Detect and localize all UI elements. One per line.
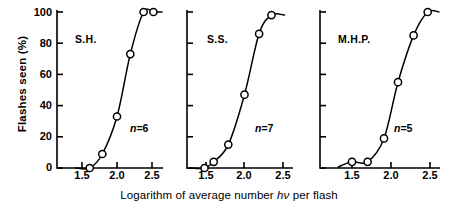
panel-mhp: M.H.P. n=5 1.5 2.0 2.5 <box>318 0 442 185</box>
y-tick-60: 60 <box>26 69 52 80</box>
y-tick-100: 100 <box>26 7 52 18</box>
n-label-mhp: n=5 <box>394 122 412 134</box>
x-tick-mhp-3: 2.5 <box>422 170 437 181</box>
plot-area-sh <box>55 0 165 185</box>
x-axis-tick-labels-mhp: 1.5 2.0 2.5 <box>318 170 442 186</box>
x-tick-ss-1: 1.5 <box>198 170 213 181</box>
x-tick-sh-3: 2.5 <box>144 170 159 181</box>
y-tick-20: 20 <box>26 131 52 142</box>
plot-area-ss <box>185 0 295 185</box>
n-label-ss: n=7 <box>255 122 273 134</box>
x-tick-ss-2: 2.0 <box>236 170 251 181</box>
x-tick-mhp-1: 1.5 <box>344 170 359 181</box>
plot-area-mhp <box>318 0 442 185</box>
panel-ss: S.S. n=7 1.5 2.0 2.5 <box>185 0 295 185</box>
subject-label-sh: S.H. <box>75 33 97 45</box>
n-value: =6 <box>136 122 148 134</box>
x-axis-tick-labels-ss: 1.5 2.0 2.5 <box>185 170 295 186</box>
y-tick-80: 80 <box>26 38 52 49</box>
panel-sh: S.H. n=6 1.5 2.0 2.5 <box>55 0 165 185</box>
subject-label-ss: S.S. <box>207 33 228 45</box>
x-axis-tick-labels-sh: 1.5 2.0 2.5 <box>55 170 165 186</box>
x-axis-label-symbol: hν <box>277 189 289 201</box>
x-tick-sh-2: 2.0 <box>109 170 124 181</box>
x-axis-label-prefix: Logarithm of average number <box>120 189 277 201</box>
subject-label-mhp: M.H.P. <box>338 33 371 45</box>
x-axis-label: Logarithm of average number hν per flash <box>0 189 458 201</box>
n-value: =5 <box>400 122 412 134</box>
x-tick-ss-3: 2.5 <box>275 170 290 181</box>
x-tick-sh-1: 1.5 <box>74 170 89 181</box>
x-tick-mhp-2: 2.0 <box>383 170 398 181</box>
x-axis-label-suffix: per flash <box>289 189 337 201</box>
y-tick-0: 0 <box>26 162 52 173</box>
y-axis-tick-labels: 100 80 60 40 20 0 <box>22 0 52 211</box>
n-label-sh: n=6 <box>130 122 148 134</box>
y-tick-40: 40 <box>26 100 52 111</box>
figure-frequency-of-seeing: Flashes seen (%) 100 80 60 40 20 0 S.H. … <box>0 0 458 211</box>
n-value: =7 <box>261 122 273 134</box>
